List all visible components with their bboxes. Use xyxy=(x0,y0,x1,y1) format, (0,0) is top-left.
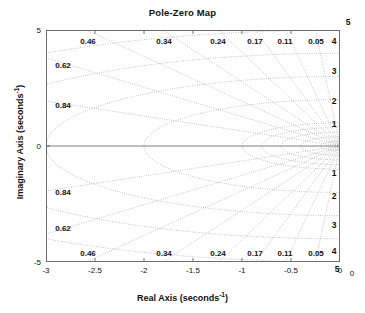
damping-ratio-label: 0.17 xyxy=(247,249,263,258)
pole-zero-map-figure: Pole-Zero Map -3-2.5-2-1.5-1-0.5050-5 0.… xyxy=(0,0,365,313)
damping-ratio-label: 0.46 xyxy=(80,249,96,258)
damping-ratio-label: 0.24 xyxy=(210,37,226,46)
damping-ratio-label: 0.11 xyxy=(277,37,292,46)
x-tick-label: -0.5 xyxy=(284,266,298,275)
y-axis-label-exponent: -1 xyxy=(13,88,20,94)
damping-ratio-label: 0.34 xyxy=(156,249,172,258)
natural-frequency-label: 1 xyxy=(332,168,337,178)
natural-frequency-label: 3 xyxy=(332,220,337,230)
y-axis-label-wrapper: Imaginary Axis (seconds-1) xyxy=(9,26,27,258)
x-axis-zero-label: 0 xyxy=(350,269,354,278)
plot-area xyxy=(46,30,340,262)
damping-ratio-label: 0.05 xyxy=(308,37,324,46)
damping-ratio-label: 0.34 xyxy=(156,37,172,46)
x-tick-label: -2.5 xyxy=(88,266,102,275)
natural-frequency-label: 5 xyxy=(335,264,340,274)
natural-frequency-label: 4 xyxy=(332,36,337,46)
natural-frequency-label: 2 xyxy=(332,96,337,106)
damping-ratio-label: 0.05 xyxy=(308,249,324,258)
natural-frequency-label: 3 xyxy=(332,66,337,76)
x-axis-label: Real Axis (seconds-1) xyxy=(0,291,365,303)
natural-frequency-label: 5 xyxy=(346,17,351,27)
x-tick-label: -1.5 xyxy=(186,266,200,275)
damping-ratio-label: 0.11 xyxy=(277,249,292,258)
x-tick-label: -3 xyxy=(42,266,49,275)
y-tick-label: -5 xyxy=(20,258,41,267)
damping-ratio-label: 0.84 xyxy=(55,101,71,110)
natural-frequency-label: 1 xyxy=(332,119,337,129)
damping-ratio-label: 0.62 xyxy=(55,224,71,233)
natural-frequency-label: 2 xyxy=(332,191,337,201)
x-tick-label: -2 xyxy=(140,266,147,275)
damping-ratio-label: 0.24 xyxy=(210,249,226,258)
y-axis-label: Imaginary Axis (seconds-1) xyxy=(15,85,25,200)
x-axis-label-text: Real Axis (seconds xyxy=(137,293,219,303)
damping-ratio-label: 0.62 xyxy=(55,61,71,70)
x-axis-label-tail: ) xyxy=(225,293,228,303)
chart-title: Pole-Zero Map xyxy=(0,7,365,18)
x-tick-label: -1 xyxy=(238,266,245,275)
plot-frame xyxy=(46,30,340,262)
damping-ratio-label: 0.46 xyxy=(80,37,96,46)
natural-frequency-label: 4 xyxy=(332,246,337,256)
damping-ratio-label: 0.84 xyxy=(55,188,71,197)
y-axis-label-tail: ) xyxy=(15,85,25,88)
y-axis-label-text: Imaginary Axis (seconds xyxy=(15,94,25,200)
damping-ratio-label: 0.17 xyxy=(247,37,263,46)
